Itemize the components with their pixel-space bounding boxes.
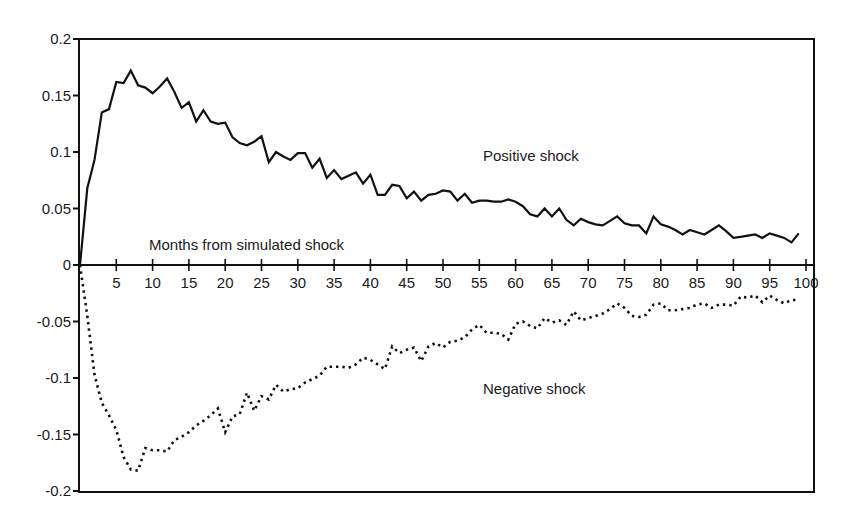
y-axis: 0.20.150.10.050-0.05-0.1-0.15-0.2 bbox=[37, 30, 80, 499]
y-tick-label: 0.1 bbox=[50, 143, 71, 160]
negative-shock-label: Negative shock bbox=[483, 380, 586, 397]
x-tick-label: 70 bbox=[580, 274, 597, 291]
x-tick-label: 95 bbox=[761, 274, 778, 291]
x-tick-label: 45 bbox=[398, 274, 415, 291]
x-tick-label: 85 bbox=[689, 274, 706, 291]
x-tick-label: 65 bbox=[544, 274, 561, 291]
y-tick-label: 0 bbox=[63, 256, 71, 273]
x-tick-label: 100 bbox=[793, 274, 818, 291]
x-axis: 5101520253035404550556065707580859095100 bbox=[79, 259, 819, 291]
y-tick-label: 0.15 bbox=[42, 87, 71, 104]
x-tick-label: 60 bbox=[507, 274, 524, 291]
x-tick-label: 30 bbox=[289, 274, 306, 291]
x-tick-label: 75 bbox=[616, 274, 633, 291]
impulse-response-chart: 0.20.150.10.050-0.05-0.1-0.15-0.2 510152… bbox=[0, 0, 847, 532]
positive-shock-label: Positive shock bbox=[483, 147, 579, 164]
x-tick-label: 80 bbox=[652, 274, 669, 291]
x-tick-label: 25 bbox=[253, 274, 270, 291]
x-tick-label: 50 bbox=[435, 274, 452, 291]
x-tick-label: 90 bbox=[725, 274, 742, 291]
x-tick-label: 40 bbox=[362, 274, 379, 291]
y-tick-label: 0.05 bbox=[42, 200, 71, 217]
x-tick-label: 5 bbox=[112, 274, 120, 291]
negative-shock-line bbox=[80, 265, 799, 471]
x-axis-title: Months from simulated shock bbox=[149, 236, 345, 253]
x-tick-label: 10 bbox=[144, 274, 161, 291]
y-tick-label: -0.05 bbox=[37, 313, 71, 330]
x-tick-label: 15 bbox=[181, 274, 198, 291]
y-tick-label: -0.2 bbox=[45, 482, 71, 499]
x-tick-label: 35 bbox=[326, 274, 343, 291]
x-tick-label: 55 bbox=[471, 274, 488, 291]
y-tick-label: 0.2 bbox=[50, 30, 71, 47]
y-tick-label: -0.15 bbox=[37, 426, 71, 443]
x-tick-label: 20 bbox=[217, 274, 234, 291]
y-tick-label: -0.1 bbox=[45, 369, 71, 386]
